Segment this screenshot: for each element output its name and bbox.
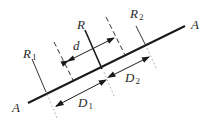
diagram-canvas: A A R1 R R2 d D1 D2 (0, 0, 213, 125)
line-r1 (32, 59, 46, 92)
line-r (85, 30, 102, 69)
arrowhead-d-left (66, 56, 75, 63)
label-a-right: A (190, 17, 199, 32)
label-r: R (76, 17, 85, 32)
line-r1-extension (47, 94, 57, 118)
label-r1: R1 (22, 46, 36, 62)
label-d1: D1 (77, 95, 93, 111)
line-d-right-boundary (106, 17, 125, 55)
arrowhead-d1-left (55, 100, 64, 107)
line-r2-extension (147, 48, 157, 70)
label-d2: D2 (124, 70, 140, 86)
label-a-left: A (11, 100, 20, 115)
arrowhead-d2-left (107, 72, 116, 79)
line-r2 (136, 26, 146, 46)
label-r2: R2 (129, 6, 143, 22)
label-d: d (73, 38, 80, 53)
line-a-a (28, 26, 185, 103)
